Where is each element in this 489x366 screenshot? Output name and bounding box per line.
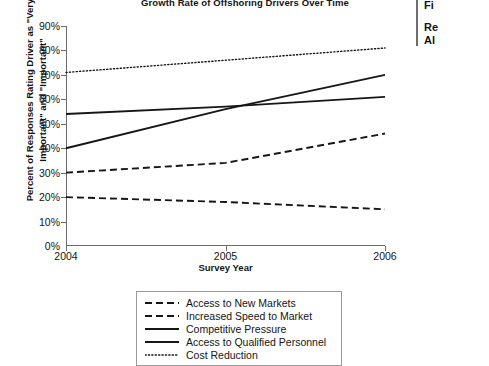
x-axis-title: Survey Year [66,262,385,273]
legend-item[interactable]: Increased Speed to Market [137,309,341,322]
y-tick-label: 80% [20,44,60,56]
legend-label: Increased Speed to Market [186,310,312,322]
chart-legend: Access to New MarketsIncreased Speed to … [136,291,342,366]
y-tick-label: 30% [20,167,60,179]
legend-item[interactable]: Access to Qualified Personnel [137,335,341,348]
y-tick-label: 40% [20,142,60,154]
series-lines [66,26,385,246]
y-tick-label: 20% [20,191,60,203]
y-tick-label: 50% [20,118,60,130]
side-caption-figure-line: Fi [424,0,489,12]
x-tick-label: 2006 [360,250,410,262]
series-line [66,197,385,209]
x-tick-mark [226,246,227,251]
side-caption-panel: Fi Re Al [416,0,489,46]
series-line [66,134,385,173]
legend-item[interactable]: Cost Reduction [137,348,341,361]
legend-line-swatch [145,311,179,321]
y-tick-label: 90% [20,20,60,32]
x-tick-label: 2005 [201,250,251,262]
side-caption-line-2: Re [424,21,489,34]
y-tick-label: 60% [20,93,60,105]
legend-label: Cost Reduction [186,349,258,361]
y-tick-label: 10% [20,216,60,228]
x-tick-mark [66,246,67,251]
legend-label: Access to Qualified Personnel [186,336,326,348]
series-line [66,97,385,114]
legend-line-swatch [145,350,179,360]
series-line [66,48,385,72]
legend-line-swatch [145,324,179,334]
legend-item[interactable]: Competitive Pressure [137,322,341,335]
y-tick-label: 70% [20,69,60,81]
legend-line-swatch [145,337,179,347]
legend-label: Competitive Pressure [186,323,286,335]
legend-label: Access to New Markets [186,297,296,309]
x-tick-label: 2004 [41,250,91,262]
x-tick-mark [385,246,386,251]
chart-title: Growth Rate of Offshoring Drivers Over T… [120,0,370,8]
plot-area: 200420052006 [66,26,385,246]
side-caption-line-3: Al [424,34,489,46]
legend-item[interactable]: Access to New Markets [137,296,341,309]
legend-line-swatch [145,298,179,308]
